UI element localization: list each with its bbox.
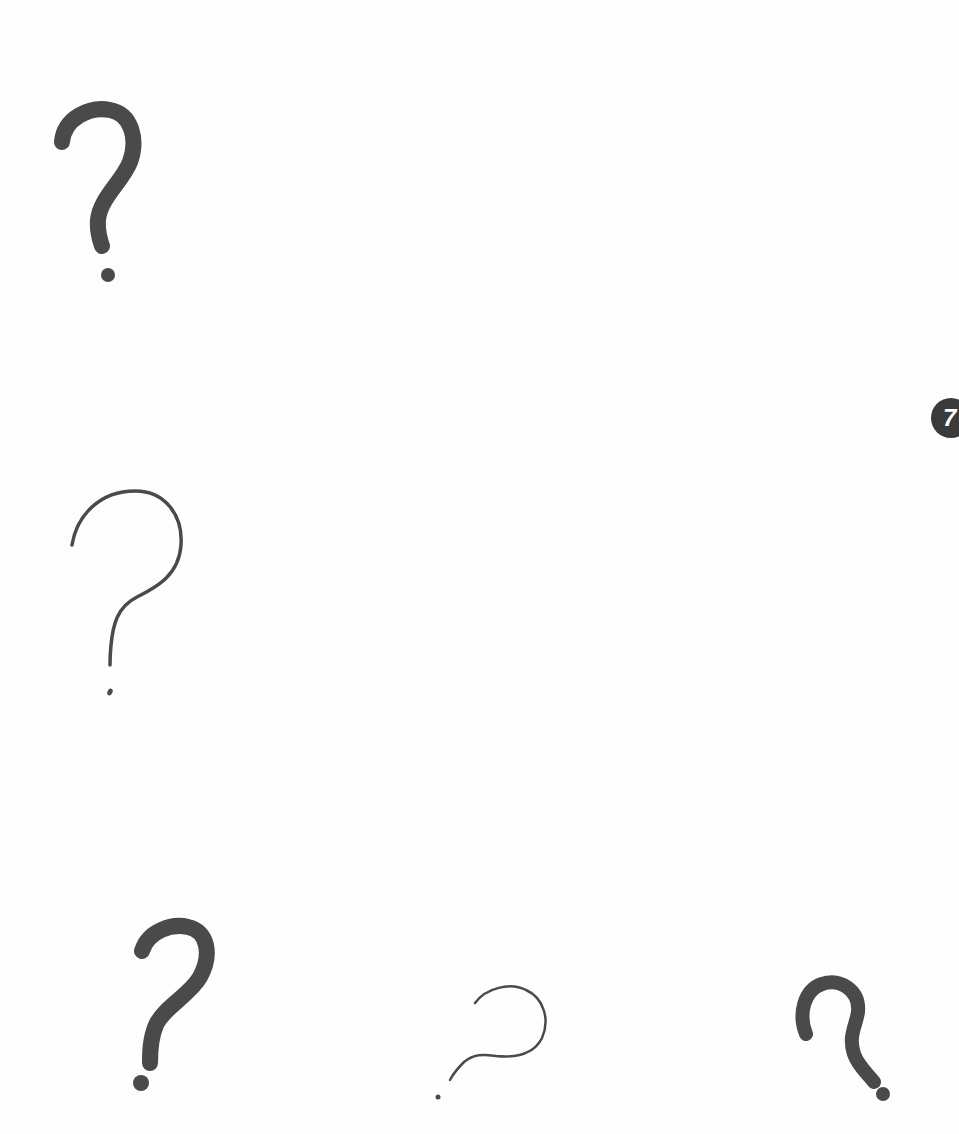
question-mark-icon bbox=[128, 915, 223, 1100]
question-mark-icon bbox=[790, 970, 900, 1105]
scanned-page: 7 bbox=[0, 0, 959, 1134]
badge-number: 7 bbox=[943, 404, 956, 431]
question-mark-icon bbox=[430, 970, 560, 1105]
number-badge: 7 bbox=[931, 398, 959, 438]
question-mark-icon bbox=[50, 100, 150, 290]
question-mark-icon bbox=[65, 485, 195, 700]
